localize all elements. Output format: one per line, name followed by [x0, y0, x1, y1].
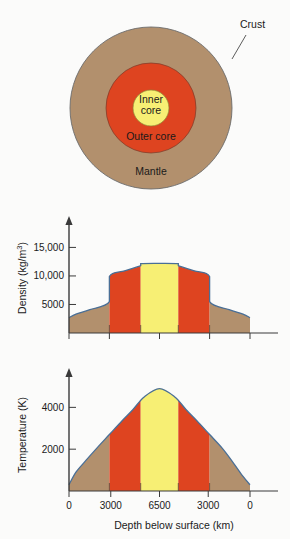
inner-core-label-line2: core — [141, 104, 162, 116]
outer-core-label: Outer core — [126, 130, 176, 142]
y-tick-label: 2000 — [42, 444, 65, 455]
x-tick-label: 0 — [66, 500, 72, 511]
x-tick-label: 3000 — [197, 500, 220, 511]
density-y-axis-title: Density (kg/m3) — [15, 242, 28, 314]
temperature-xlabel: Depth below surface (km) — [114, 519, 234, 531]
density-ylabel-close: ) — [16, 242, 28, 246]
y-tick-label: 5000 — [42, 299, 65, 310]
temperature-ylabel: Temperature (K) — [16, 397, 28, 473]
y-tick-label: 10,000 — [33, 270, 64, 281]
svg-text:Density (kg/m3): Density (kg/m3) — [15, 242, 28, 314]
y-tick-label: 4000 — [42, 402, 65, 413]
x-tick-label: 0 — [247, 500, 253, 511]
x-tick-label: 6500 — [148, 500, 171, 511]
y-tick-label: 15,000 — [33, 242, 64, 253]
mantle-label: Mantle — [135, 165, 167, 177]
crust-label: Crust — [240, 18, 265, 30]
earth-structure-figure: Crust Inner core Outer core Mantle — [0, 0, 290, 539]
density-ylabel-base: Density (kg/m — [16, 249, 28, 313]
x-tick-label: 3000 — [100, 500, 123, 511]
temperature-y-axis-title: Temperature (K) — [16, 397, 28, 473]
